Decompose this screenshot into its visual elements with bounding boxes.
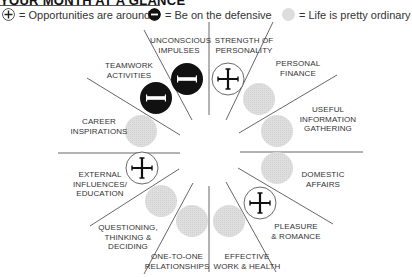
label-teamwork-activities: TEAMWORK ACTIVITIES <box>101 61 157 80</box>
status-effective-work-gray-icon <box>213 205 245 237</box>
status-external-plus-icon <box>126 152 158 184</box>
label-effective-work-health: EFFECTIVE WORK & HEALTH <box>211 252 283 271</box>
label-one-to-one-relationships: ONE-TO-ONE RELATIONSHIPS <box>144 252 210 271</box>
status-one-to-one-gray-icon <box>176 205 208 237</box>
label-personal-finance: PERSONAL FINANCE <box>270 59 326 78</box>
status-questioning-gray-icon <box>145 185 177 217</box>
status-unconscious-impulses-minus-icon <box>171 63 203 95</box>
label-domestic-affairs: DOMESTIC AFFAIRS <box>295 170 351 189</box>
status-teamwork-minus-icon <box>140 82 172 114</box>
label-strength-of-personality: STRENGTH OF PERSONALITY <box>212 36 276 55</box>
status-personal-finance-gray-icon <box>243 83 275 115</box>
status-pleasure-plus-icon <box>244 187 276 219</box>
status-strength-plus-icon <box>212 63 244 95</box>
label-questioning-thinking: QUESTIONING, THINKING & DECIDING <box>96 223 160 252</box>
label-useful-information: USEFUL INFORMATION GATHERING <box>296 105 360 134</box>
label-pleasure-romance: PLEASURE & ROMANCE <box>264 222 328 241</box>
label-external-influences: EXTERNAL INFLUENCES/ EDUCATION <box>71 170 129 199</box>
label-unconscious-impulses: UNCONSCIOUS IMPULSES <box>150 36 208 55</box>
status-domestic-gray-icon <box>261 152 293 184</box>
status-useful-info-gray-icon <box>261 115 293 147</box>
label-career-inspirations: CAREER INSPIRATIONS <box>68 117 130 136</box>
